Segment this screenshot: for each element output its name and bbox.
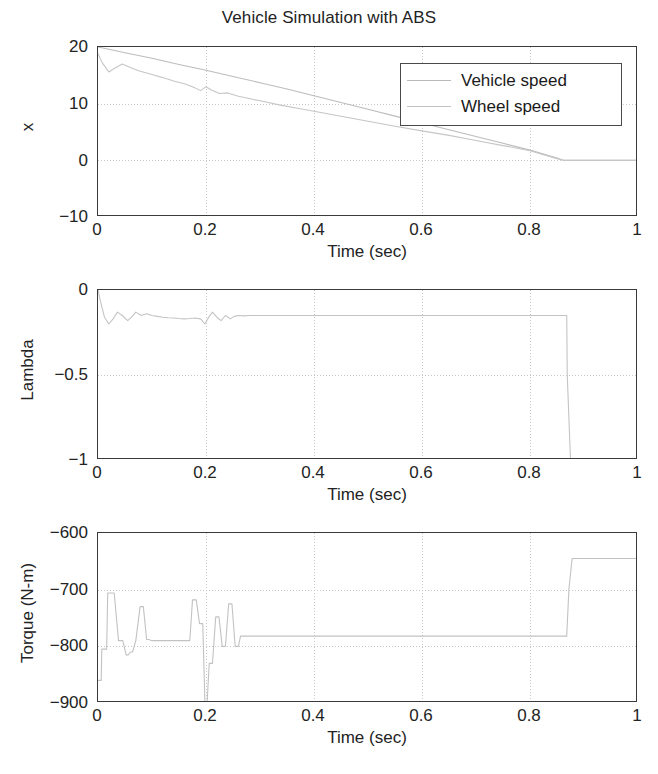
legend-box[interactable]: Vehicle speed Wheel speed xyxy=(400,63,622,126)
speed-xtick-06: 0.6 xyxy=(401,220,441,240)
legend-label-vehicle-speed: Vehicle speed xyxy=(461,68,567,94)
lambda-ytick-0: 0 xyxy=(30,280,88,300)
legend-entry-wheel-speed[interactable]: Wheel speed xyxy=(407,94,613,120)
speed-xtick-0: 0 xyxy=(77,220,117,240)
lambda-xtick-02: 0.2 xyxy=(185,463,225,483)
matlab-figure: Vehicle Simulation with ABS 20 10 0 −10 … xyxy=(0,0,658,774)
torque-xlabel: Time (sec) xyxy=(197,728,537,748)
torque-axes xyxy=(97,532,637,702)
lambda-ylabel: Lambda xyxy=(18,320,38,420)
lambda-xtick-04: 0.4 xyxy=(293,463,333,483)
speed-xtick-02: 0.2 xyxy=(185,220,225,240)
legend-line-wheel-speed xyxy=(407,101,451,113)
speed-ytick-20: 20 xyxy=(30,37,88,57)
torque-xtick-0: 0 xyxy=(77,706,117,726)
torque-xtick-1: 1 xyxy=(617,706,657,726)
lambda-xtick-08: 0.8 xyxy=(509,463,549,483)
legend-entry-vehicle-speed[interactable]: Vehicle speed xyxy=(407,68,613,94)
lambda-xtick-0: 0 xyxy=(77,463,117,483)
lambda-xlabel: Time (sec) xyxy=(197,485,537,505)
speed-ytick-10: 10 xyxy=(30,94,88,114)
speed-ytick-0: 0 xyxy=(30,151,88,171)
torque-xtick-06: 0.6 xyxy=(401,706,441,726)
lambda-axes xyxy=(97,289,637,459)
lambda-xtick-06: 0.6 xyxy=(401,463,441,483)
legend-line-vehicle-speed xyxy=(407,75,451,87)
lambda-xtick-1: 1 xyxy=(617,463,657,483)
figure-title: Vehicle Simulation with ABS xyxy=(0,8,658,28)
speed-ylabel: x xyxy=(18,97,38,157)
speed-xtick-1: 1 xyxy=(617,220,657,240)
torque-xtick-08: 0.8 xyxy=(509,706,549,726)
torque-ylabel: Torque (N-m) xyxy=(18,533,38,693)
torque-xtick-04: 0.4 xyxy=(293,706,333,726)
torque-xtick-02: 0.2 xyxy=(185,706,225,726)
speed-xtick-08: 0.8 xyxy=(509,220,549,240)
legend-label-wheel-speed: Wheel speed xyxy=(461,94,560,120)
speed-xtick-04: 0.4 xyxy=(293,220,333,240)
speed-xlabel: Time (sec) xyxy=(197,242,537,262)
